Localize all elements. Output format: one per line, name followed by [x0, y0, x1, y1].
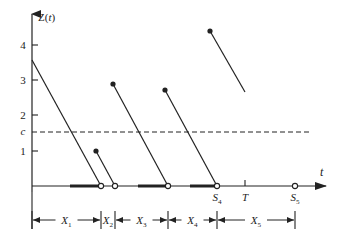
open-circle: [98, 183, 103, 188]
interval-label-X1: X1: [60, 214, 72, 229]
y-tick-label: 4: [20, 39, 26, 51]
interval-row: X1X2X3X4X5: [32, 192, 295, 229]
interval-label-X4: X4: [186, 214, 198, 229]
decay-segment: [32, 60, 101, 186]
renewal-process-diagram: Z(t)t 4321 c S4TS5 X1X2X3X4X5: [0, 0, 343, 238]
interval-label-X2: X2: [102, 214, 114, 229]
decay-segment: [96, 151, 115, 186]
y-tick-label: 1: [20, 145, 26, 157]
decay-segment: [113, 84, 168, 186]
sawtooth-segments: [32, 28, 298, 188]
open-circle: [165, 183, 170, 188]
y-tick-label: 2: [20, 109, 26, 121]
axis-mark-S4: S4: [212, 191, 222, 206]
open-circle: [112, 183, 117, 188]
decay-segment: [210, 31, 245, 92]
open-circle: [292, 183, 297, 188]
threshold-label: c: [21, 125, 26, 137]
jump-dot: [110, 81, 115, 86]
y-axis-label: Z(t): [38, 11, 55, 24]
axes: Z(t)t: [32, 11, 326, 192]
axis-mark-T: T: [242, 191, 249, 203]
y-tick-label: 3: [20, 74, 26, 86]
open-circle: [214, 183, 219, 188]
jump-dot: [93, 148, 98, 153]
t-axis-label: t: [320, 165, 324, 179]
interval-label-X5: X5: [250, 214, 262, 229]
decay-segment: [165, 90, 217, 186]
jump-dot: [207, 28, 212, 33]
jump-dot: [162, 87, 167, 92]
interval-label-X3: X3: [135, 214, 147, 229]
t-axis-marks: S4TS5: [212, 180, 300, 206]
threshold-line: c: [21, 125, 312, 137]
y-axis-ticks: 4321: [20, 39, 38, 157]
axis-mark-S5: S5: [290, 191, 300, 206]
